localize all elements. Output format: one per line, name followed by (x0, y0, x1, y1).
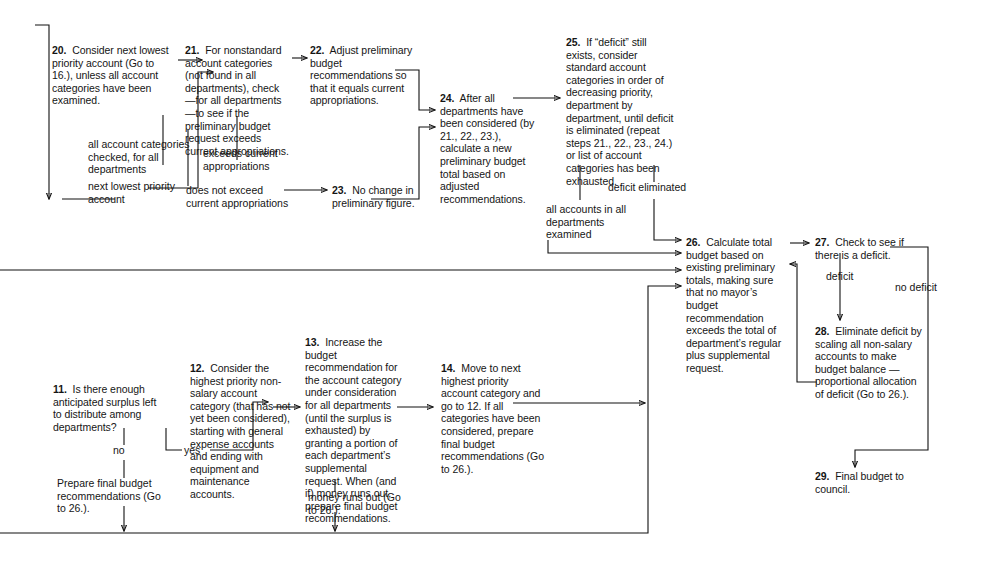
node-23-number: 23. (332, 184, 346, 196)
node-29-number: 29. (815, 470, 829, 482)
edge-label-no-deficit: no deficit (895, 281, 957, 294)
edge-label-deficit: deficit (826, 270, 876, 283)
node-27-number: 27. (815, 236, 829, 248)
node-14-text: Move to next highest priority account ca… (441, 362, 547, 475)
edge-entry-to-20 (35, 25, 49, 199)
edge-label-next-lowest-priority-account: next lowest priority account (88, 180, 196, 205)
node-20: 20. Consider next lowest priority accoun… (52, 44, 170, 107)
edge-label-prepare-final-budget: Prepare final budget recommendations (Go… (57, 477, 169, 515)
edge-label-exceeds-current-appropriations: exceeds current appropriations (203, 147, 295, 172)
flowchart-canvas: 20. Consider next lowest priority accoun… (0, 0, 993, 565)
node-24: 24. After all departments have been cons… (440, 92, 544, 205)
node-11-text: Is there enough anticipated surplus left… (53, 383, 159, 433)
node-14: 14. Move to next highest priority accoun… (441, 362, 545, 475)
node-29-text: Final budget to council. (815, 470, 907, 495)
node-25-number: 25. (566, 36, 580, 48)
edge-25-deficit-to-26 (654, 199, 681, 240)
edge-11-yes (166, 428, 182, 450)
edge-label-all-account-categories-checked: all account categories checked, for all … (88, 138, 204, 176)
node-24-text: After all departments have been consider… (440, 92, 537, 205)
edge-label-yes: yes (184, 444, 210, 457)
node-29: 29. Final budget to council. (815, 470, 925, 495)
edge-label-does-not-exceed-current-appropriations: does not exceed current appropriations (186, 184, 292, 209)
edge-label-money-runs-out: money runs out (Go to 26.). (308, 491, 404, 516)
edge-label-no: no (113, 444, 137, 457)
node-28-text: Eliminate deficit by scaling all non-sal… (815, 325, 925, 400)
node-27-text: Check to see if there is a deficit. (815, 236, 907, 261)
node-21-number: 21. (185, 44, 199, 56)
node-12-text: Consider the highest priority non-salary… (190, 362, 293, 500)
edge-25-allaccounts-to-26 (548, 240, 681, 253)
node-12: 12. Consider the highest priority non-sa… (190, 362, 292, 501)
edge-28-back-to-26 (790, 264, 817, 382)
node-20-number: 20. (52, 44, 66, 56)
node-26-text: Calculate total budget based on existing… (686, 236, 784, 374)
node-11-number: 11. (53, 383, 67, 395)
node-24-number: 24. (440, 92, 454, 104)
node-23: 23. No change in preliminary figure. (332, 184, 436, 209)
node-12-number: 12. (190, 362, 204, 374)
node-22: 22. Adjust preliminary budget recommenda… (310, 44, 418, 107)
node-14-number: 14. (441, 362, 455, 374)
node-26-number: 26. (686, 236, 700, 248)
node-22-number: 22. (310, 44, 324, 56)
node-20-text: Consider next lowest priority account (G… (52, 44, 172, 106)
node-22-text: Adjust preliminary budget recommendation… (310, 44, 415, 106)
node-25: 25. If “deficit” still exists, consider … (566, 36, 676, 187)
edge-label-all-accounts-examined: all accounts in all departments examined (546, 203, 632, 241)
node-28-number: 28. (815, 325, 829, 337)
edge-label-deficit-eliminated: deficit eliminated (608, 181, 704, 194)
node-27: 27. Check to see if there is a deficit. (815, 236, 923, 261)
node-28: 28. Eliminate deficit by scaling all non… (815, 325, 925, 401)
node-13-number: 13. (305, 336, 319, 348)
node-11: 11. Is there enough anticipated surplus … (53, 383, 165, 433)
node-26: 26. Calculate total budget based on exis… (686, 236, 791, 375)
node-25-text: If “deficit” still exists, consider stan… (566, 36, 676, 187)
